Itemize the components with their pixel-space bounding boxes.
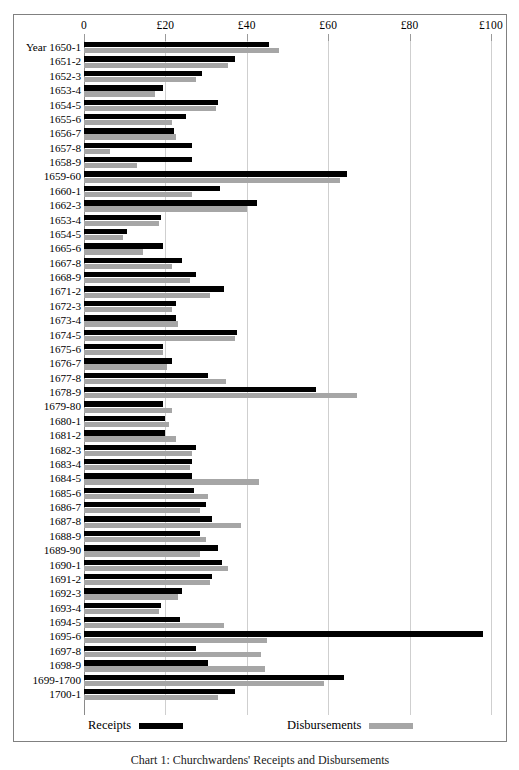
- bar-receipts: [84, 660, 208, 665]
- row-bars: [84, 415, 506, 429]
- chart-row: 1695-6: [14, 630, 506, 644]
- row-label-1694-5: 1694-5: [14, 615, 81, 629]
- bar-receipts: [84, 358, 172, 363]
- bar-receipts: [84, 416, 165, 421]
- x-axis-tick-mark-5: [491, 34, 492, 41]
- bar-receipts: [84, 516, 212, 521]
- bar-disbursements: [84, 163, 137, 168]
- chart-row: 1674-5: [14, 329, 506, 343]
- row-label-1662-3: 1662-3: [14, 198, 81, 212]
- row-bars: [84, 329, 506, 343]
- row-bars: [84, 84, 506, 98]
- bar-receipts: [84, 186, 220, 191]
- chart-row: 1682-3: [14, 444, 506, 458]
- row-bars: [84, 501, 506, 515]
- bar-disbursements: [84, 63, 228, 68]
- bar-receipts: [84, 401, 163, 406]
- bar-disbursements: [84, 623, 224, 628]
- row-label-1653-4: 1653-4: [14, 83, 81, 97]
- chart-row: 1676-7: [14, 357, 506, 371]
- chart-row: 1693-4: [14, 602, 506, 616]
- row-bars: [84, 285, 506, 299]
- bar-disbursements: [84, 293, 210, 298]
- bar-receipts: [84, 114, 186, 119]
- row-label-1675-6: 1675-6: [14, 342, 81, 356]
- x-axis-tick-mark-3: [328, 34, 329, 41]
- bar-disbursements: [84, 566, 228, 571]
- bar-disbursements: [84, 48, 279, 53]
- chart-row: 1672-3: [14, 300, 506, 314]
- bar-receipts: [84, 272, 196, 277]
- row-bars: [84, 630, 506, 644]
- bar-rows: Year 1650-11651-21652-31653-41654-51655-…: [14, 41, 506, 711]
- chart-row: 1659-60: [14, 170, 506, 184]
- row-label-1697-8: 1697-8: [14, 644, 81, 658]
- bar-receipts: [84, 588, 182, 593]
- bar-disbursements: [84, 422, 169, 427]
- bar-receipts: [84, 387, 316, 392]
- bar-receipts: [84, 286, 224, 291]
- chart-row: 1652-3: [14, 70, 506, 84]
- row-label-Year-1650-1: Year 1650-1: [14, 40, 81, 54]
- chart-row: 1697-8: [14, 645, 506, 659]
- chart-row: 1654-5: [14, 99, 506, 113]
- row-label-1685-6: 1685-6: [14, 486, 81, 500]
- chart-row: 1656-7: [14, 127, 506, 141]
- row-bars: [84, 444, 506, 458]
- x-axis-tick-mark-0: [84, 34, 85, 41]
- bar-disbursements: [84, 264, 172, 269]
- bar-disbursements: [84, 278, 190, 283]
- bar-receipts: [84, 128, 174, 133]
- row-bars: [84, 300, 506, 314]
- chart-row: 1655-6: [14, 113, 506, 127]
- chart-row: 1686-7: [14, 501, 506, 515]
- bar-disbursements: [84, 134, 176, 139]
- bar-disbursements: [84, 235, 123, 240]
- chart-row: 1667-8: [14, 257, 506, 271]
- row-bars: [84, 674, 506, 688]
- x-axis-tick-label-4: £80: [401, 19, 419, 31]
- bar-disbursements: [84, 638, 267, 643]
- row-bars: [84, 343, 506, 357]
- row-bars: [84, 616, 506, 630]
- row-bars: [84, 458, 506, 472]
- chart-row: 1662-3: [14, 199, 506, 213]
- bar-disbursements: [84, 192, 192, 197]
- bar-disbursements: [84, 206, 247, 211]
- chart-row: 1653-4: [14, 214, 506, 228]
- chart-row: 1665-6: [14, 242, 506, 256]
- row-bars: [84, 41, 506, 55]
- legend-label-receipts: Receipts: [88, 718, 131, 733]
- chart-frame: 0£20£40£60£80£100 Year 1650-11651-21652-…: [13, 14, 507, 742]
- bar-disbursements: [84, 652, 261, 657]
- bar-disbursements: [84, 494, 208, 499]
- row-bars: [84, 386, 506, 400]
- chart-row: 1680-1: [14, 415, 506, 429]
- chart-row: 1658-9: [14, 156, 506, 170]
- chart-row: 1675-6: [14, 343, 506, 357]
- row-label-1658-9: 1658-9: [14, 155, 81, 169]
- bar-disbursements: [84, 321, 178, 326]
- row-label-1679-80: 1679-80: [14, 399, 81, 413]
- bar-disbursements: [84, 336, 235, 341]
- bar-disbursements: [84, 537, 206, 542]
- row-label-1660-1: 1660-1: [14, 184, 81, 198]
- row-label-1684-5: 1684-5: [14, 471, 81, 485]
- row-label-1691-2: 1691-2: [14, 572, 81, 586]
- figure-page: 0£20£40£60£80£100 Year 1650-11651-21652-…: [0, 0, 519, 770]
- bar-receipts: [84, 215, 161, 220]
- row-bars: [84, 587, 506, 601]
- chart-row: 1692-3: [14, 587, 506, 601]
- row-label-1699-1700: 1699-1700: [14, 673, 81, 687]
- row-bars: [84, 429, 506, 443]
- row-label-1678-9: 1678-9: [14, 385, 81, 399]
- row-label-1673-4: 1673-4: [14, 313, 81, 327]
- bar-receipts: [84, 258, 182, 263]
- row-label-1682-3: 1682-3: [14, 443, 81, 457]
- chart-row: 1668-9: [14, 271, 506, 285]
- bar-receipts: [84, 430, 165, 435]
- bar-receipts: [84, 229, 127, 234]
- bar-receipts: [84, 200, 257, 205]
- bar-receipts: [84, 85, 163, 90]
- row-bars: [84, 228, 506, 242]
